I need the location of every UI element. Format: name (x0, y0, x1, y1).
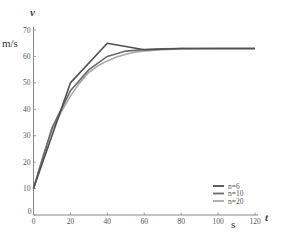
y-tick-label: 50 (23, 78, 31, 87)
x-tick-label: 60 (141, 217, 149, 226)
y-tick-label: 10 (23, 184, 31, 193)
y-axis-unit: m/s (2, 37, 18, 49)
x-tick-label: 0 (32, 217, 36, 226)
y-tick-label: 70 (23, 26, 31, 35)
x-tick-label: 40 (104, 217, 112, 226)
y-tick-label: 60 (23, 52, 31, 61)
series-line-n20 (34, 49, 256, 189)
velocity-time-chart: 102030405060700020406080100120 n=6n=10n=… (0, 0, 283, 239)
data-series (34, 43, 256, 188)
y-tick-label: 40 (23, 105, 31, 114)
axes: 102030405060700020406080100120 (23, 26, 261, 227)
y-axis-variable: v (30, 6, 35, 18)
legend: n=6n=10n=20 (213, 182, 244, 206)
origin-y-label: 0 (28, 207, 32, 216)
x-tick-label: 80 (177, 217, 185, 226)
legend-label: n=20 (228, 197, 244, 206)
y-tick-label: 30 (23, 131, 31, 140)
x-axis-variable: t (265, 211, 269, 223)
x-tick-label: 120 (249, 217, 261, 226)
x-tick-label: 20 (67, 217, 75, 226)
y-tick-label: 20 (23, 158, 31, 167)
series-line-n10 (34, 49, 256, 189)
x-axis-unit: s (231, 218, 235, 230)
x-tick-label: 100 (212, 217, 224, 226)
series-line-n6 (34, 43, 256, 188)
